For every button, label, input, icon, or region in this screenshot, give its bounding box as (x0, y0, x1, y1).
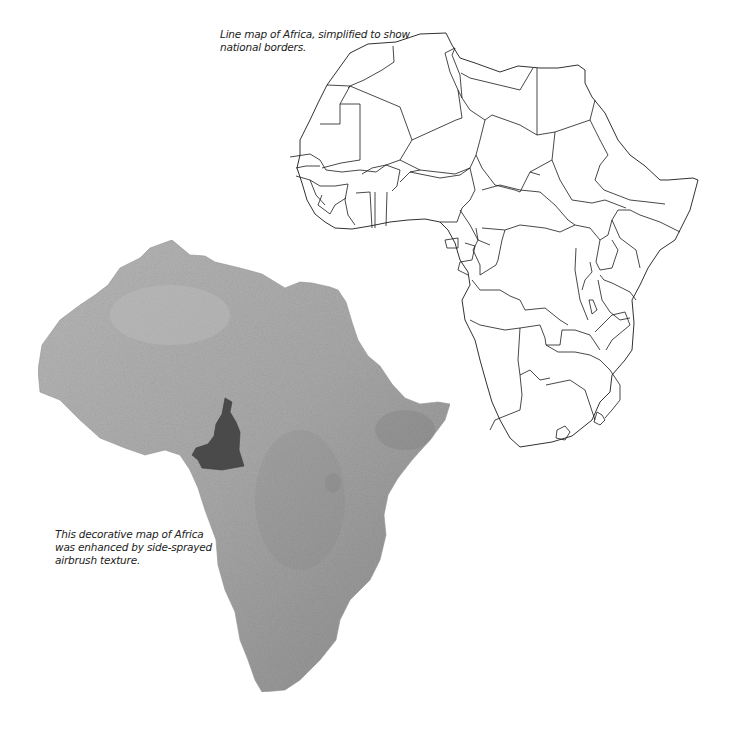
africa-outline (297, 33, 698, 447)
line-map-caption: Line map of Africa, simplified to show n… (220, 28, 410, 54)
line-map-africa (0, 0, 738, 739)
relief-map-caption: This decorative map of Africa was enhanc… (55, 528, 225, 567)
